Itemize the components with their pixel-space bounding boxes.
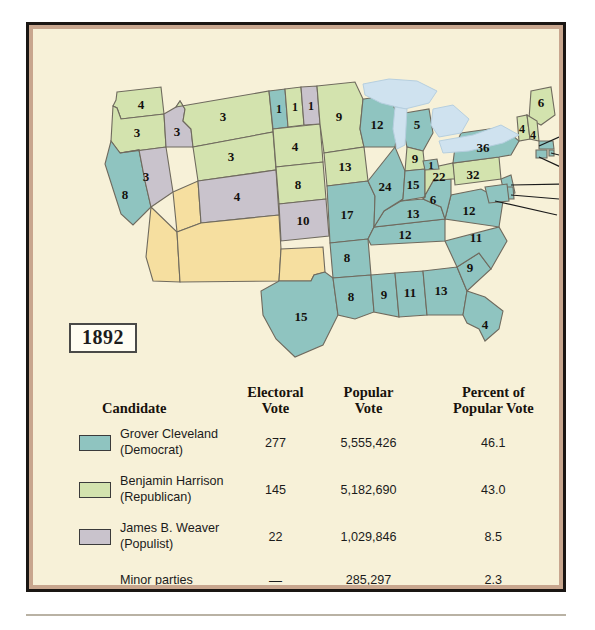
col-header-electoral-vote: Electoral Vote (236, 385, 316, 419)
ev-label-TX: 15 (295, 309, 309, 324)
col-header-electoral-line2: Vote (236, 401, 316, 417)
ev-label-TN: 12 (399, 227, 412, 242)
col-header-percent: Percent of Popular Vote (422, 385, 559, 419)
cell-percent: 8.5 (422, 513, 559, 560)
year-badge: 1892 (69, 323, 137, 353)
ev-label-VA: 12 (463, 203, 476, 218)
ev-label-CO: 4 (234, 189, 241, 204)
cell-percent: 2.3 (422, 560, 559, 585)
election-map-plate: .st{stroke:#6f6a5e;stroke-width:1.1;} .d… (0, 0, 595, 630)
state-AR (330, 239, 371, 278)
ev-label-SD: 4 (292, 139, 299, 154)
table-row-minor: Minor parties — 285,297 2.3 (33, 560, 559, 585)
ev-label-ME: 6 (538, 95, 545, 110)
ev-label-AR: 8 (344, 250, 351, 265)
cell-electoral-vote: 145 (236, 466, 316, 513)
candidate-name: James B. Weaver (120, 521, 219, 535)
ev-label-NE: 8 (295, 177, 302, 192)
plate-frame-inner: .st{stroke:#6f6a5e;stroke-width:1.1;} .d… (33, 29, 559, 585)
candidate-name: Benjamin Harrison (120, 474, 224, 488)
candidate-party: (Democrat) (120, 443, 218, 458)
ev-label-ND-b: 1 (292, 100, 298, 114)
table-row: Benjamin Harrison (Republican) 145 5,182… (33, 466, 559, 513)
ev-label-WV: 6 (430, 192, 437, 207)
col-header-percent-line2: Popular Vote (422, 401, 559, 417)
cell-popular-vote: 5,182,690 (315, 466, 421, 513)
ev-label-PA: 32 (467, 167, 480, 182)
ev-label-OR: 3 (134, 125, 141, 140)
cell-popular-vote: 1,029,846 (315, 513, 421, 560)
us-electoral-map: .st{stroke:#6f6a5e;stroke-width:1.1;} .d… (33, 29, 559, 379)
results-table: Candidate Electoral Vote Popular Vote (33, 385, 559, 585)
ev-label-IL: 24 (379, 179, 393, 194)
ev-label-LA: 8 (348, 289, 355, 304)
ev-label-MI-b: 9 (412, 151, 419, 166)
ev-label-OH-b: 1 (428, 159, 434, 171)
col-header-candidate: Candidate (33, 385, 236, 419)
ev-label-WA: 4 (138, 97, 145, 112)
candidate-party: (Populist) (120, 537, 219, 552)
ev-label-MS: 9 (381, 287, 388, 302)
ev-label-SC: 9 (467, 260, 474, 275)
table-row: Grover Cleveland (Democrat) 277 5,555,42… (33, 419, 559, 466)
ev-label-ND-a: 1 (276, 102, 282, 116)
candidate-name-block: James B. Weaver (Populist) (120, 521, 219, 552)
ev-label-CA: 8 (122, 187, 129, 202)
candidate-party: (Republican) (120, 490, 224, 505)
state-CT (536, 150, 547, 158)
ev-label-NV: 3 (143, 169, 150, 184)
candidate-name: Grover Cleveland (120, 427, 218, 441)
ev-label-KS: 10 (297, 213, 310, 228)
ev-label-OH-a: 22 (433, 169, 446, 184)
ev-label-WY: 3 (228, 149, 235, 164)
legend-swatch-populist (79, 529, 111, 545)
ev-label-MT: 3 (220, 109, 227, 124)
col-header-popular-vote: Popular Vote (315, 385, 421, 419)
legend-swatch-placeholder (79, 572, 111, 585)
ev-label-NC: 11 (470, 230, 482, 245)
candidate-name-block: Grover Cleveland (Democrat) (120, 427, 218, 458)
ev-label-VT: 4 (519, 122, 525, 136)
results-table-grid: Candidate Electoral Vote Popular Vote (33, 385, 559, 585)
table-row: James B. Weaver (Populist) 22 1,029,846 … (33, 513, 559, 560)
cell-popular-vote: 285,297 (315, 560, 421, 585)
leader-CT (539, 157, 559, 169)
cell-electoral-vote: — (236, 560, 316, 585)
ev-label-MN: 9 (336, 109, 343, 124)
cell-electoral-vote: 22 (236, 513, 316, 560)
ev-label-AL: 11 (404, 285, 416, 300)
col-header-popular-line2: Vote (315, 401, 421, 417)
plate-underline (26, 614, 566, 616)
cell-candidate: Benjamin Harrison (Republican) (33, 466, 236, 513)
col-header-electoral-line1: Electoral (236, 385, 316, 401)
ev-label-NH: 4 (530, 128, 536, 142)
candidate-name-block: Benjamin Harrison (Republican) (120, 474, 224, 505)
candidate-name: Minor parties (120, 573, 193, 585)
ev-label-MO: 17 (341, 207, 355, 222)
ev-label-KY: 13 (407, 206, 421, 221)
ev-label-IA: 13 (339, 159, 353, 174)
ev-label-NY: 36 (477, 140, 491, 155)
candidate-name-block: Minor parties (120, 573, 193, 585)
ev-label-GA: 13 (435, 283, 449, 298)
leader-MD (495, 201, 557, 215)
state-FL (463, 291, 503, 341)
cell-percent: 43.0 (422, 466, 559, 513)
cell-electoral-vote: 277 (236, 419, 316, 466)
plate-frame-mid: .st{stroke:#6f6a5e;stroke-width:1.1;} .d… (29, 25, 563, 589)
cell-candidate: James B. Weaver (Populist) (33, 513, 236, 560)
ev-label-MI-a: 5 (414, 117, 421, 132)
state-MD (485, 184, 509, 203)
col-header-popular-line1: Popular (315, 385, 421, 401)
plate-frame-outer: .st{stroke:#6f6a5e;stroke-width:1.1;} .d… (26, 22, 566, 592)
ev-label-FL: 4 (482, 317, 489, 332)
legend-swatch-republican (79, 482, 111, 498)
leader-NJ (511, 184, 559, 185)
ev-label-ND-c: 1 (308, 99, 314, 113)
cell-candidate: Minor parties (33, 560, 236, 585)
cell-candidate: Grover Cleveland (Democrat) (33, 419, 236, 466)
cell-percent: 46.1 (422, 419, 559, 466)
col-header-percent-line1: Percent of (422, 385, 559, 401)
cell-popular-vote: 5,555,426 (315, 419, 421, 466)
legend-swatch-democrat (79, 435, 111, 451)
